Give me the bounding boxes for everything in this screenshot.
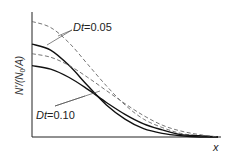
leader-line-dt005-dashed [58, 30, 72, 36]
chart: Dt=0.05 Dt=0.10 x N'/(N0/A) [0, 0, 226, 157]
leader-line-dt010-dashed [55, 91, 100, 106]
annotation-dt-0-05: Dt=0.05 [73, 21, 112, 33]
leader-line-dt005-solid [47, 30, 72, 45]
curve-solid-dt0-10 [32, 66, 218, 137]
y-axis-label: N'/(N0/A) [14, 56, 26, 95]
curve-dashed-dt0-10 [32, 54, 218, 137]
curve-solid-dt0-05 [32, 44, 218, 137]
x-axis-label: x [212, 141, 219, 153]
leader-lines [47, 30, 100, 106]
annotation-dt-0-10: Dt=0.10 [36, 109, 75, 121]
